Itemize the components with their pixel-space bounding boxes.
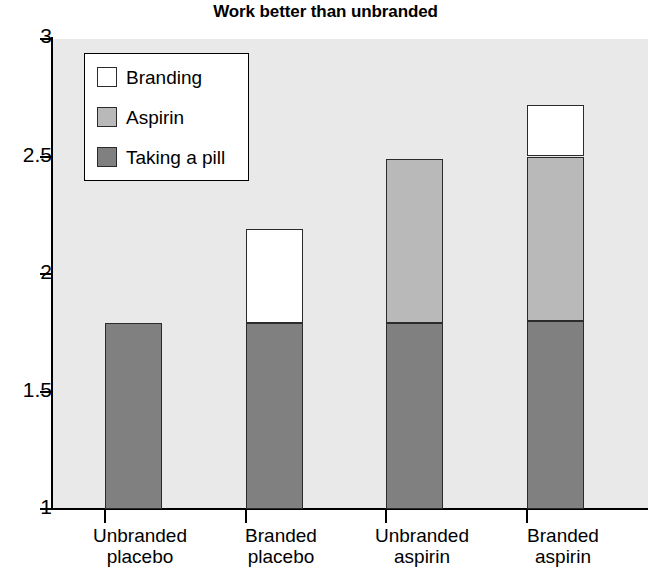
x-tick-mark-1 — [245, 510, 247, 523]
x-axis-label-line1: Branded — [206, 525, 356, 546]
x-axis-label-line2: placebo — [65, 546, 215, 567]
bar-segment-taking-a-pill — [386, 323, 443, 509]
bar-segment-branding — [246, 229, 303, 323]
x-axis-label-unbranded-placebo: Unbranded placebo — [65, 525, 215, 568]
chart-title: Work better than unbranded — [0, 2, 651, 22]
x-axis-label-line1: Unbranded — [65, 525, 215, 546]
x-axis-label-line1: Unbranded — [347, 525, 497, 546]
legend-swatch-branding-icon — [97, 67, 117, 87]
x-axis-label-branded-aspirin: Branded aspirin — [488, 525, 638, 568]
x-axis-label-unbranded-aspirin: Unbranded aspirin — [347, 525, 497, 568]
x-tick-mark-3 — [526, 510, 528, 523]
y-tick-label-3: 3 — [14, 25, 52, 46]
y-axis-ticks: 3 2.5 2 1.5 1 — [0, 0, 52, 579]
x-axis-label-branded-placebo: Branded placebo — [206, 525, 356, 568]
legend-label-branding: Branding — [126, 68, 202, 87]
y-tick-label-1-5: 1.5 — [14, 379, 52, 400]
x-tick-mark-2 — [385, 510, 387, 523]
y-tick-label-2: 2 — [14, 261, 52, 282]
bar-segment-branding — [527, 105, 584, 157]
x-axis-label-line2: aspirin — [488, 546, 638, 567]
legend-swatch-taking-a-pill-icon — [97, 147, 117, 167]
x-tick-mark-0 — [104, 510, 106, 523]
legend-item-taking-a-pill: Taking a pill — [97, 144, 225, 170]
bar-segment-taking-a-pill — [246, 323, 303, 509]
y-tick-label-2-5: 2.5 — [14, 144, 52, 165]
x-axis-label-line2: aspirin — [347, 546, 497, 567]
legend-box: Branding Aspirin Taking a pill — [84, 53, 249, 181]
legend-item-branding: Branding — [97, 64, 202, 90]
legend-item-aspirin: Aspirin — [97, 104, 184, 130]
x-axis-label-line1: Branded — [488, 525, 638, 546]
bar-segment-taking-a-pill — [105, 323, 162, 509]
legend-label-taking-a-pill: Taking a pill — [126, 148, 225, 167]
stacked-bar-chart: Work better than unbranded 3 2.5 2 1.5 1… — [0, 0, 651, 579]
y-tick-label-1: 1 — [14, 496, 52, 517]
legend-label-aspirin: Aspirin — [126, 108, 184, 127]
bar-segment-aspirin — [527, 157, 584, 322]
bar-segment-taking-a-pill — [527, 321, 584, 509]
x-axis-label-line2: placebo — [206, 546, 356, 567]
legend-swatch-aspirin-icon — [97, 107, 117, 127]
bar-segment-aspirin — [386, 159, 443, 324]
